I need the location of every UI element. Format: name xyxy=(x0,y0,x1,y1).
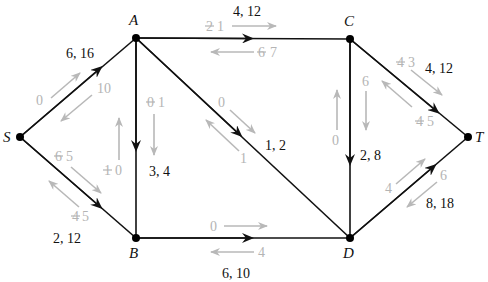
capacity-label-D-T: 8, 18 xyxy=(426,196,454,211)
residual-forward-C-T: 3 xyxy=(408,55,415,70)
capacity-label-A-D: 1, 2 xyxy=(265,138,286,153)
residual-labels: 0 10 6 5 4 5 2 1 6 7 0 1 1 0 0 1 6 0 4 3… xyxy=(36,19,447,260)
capacity-labels: 6, 16 2, 12 4, 12 3, 4 1, 2 2, 8 4, 12 6… xyxy=(53,4,454,281)
flow-network-diagram: S A B C D T 6, 16 2, 12 4, 12 3, 4 1, 2 … xyxy=(0,0,488,282)
residual-backward-A-C: 7 xyxy=(270,45,277,60)
node-B xyxy=(132,234,140,242)
node-label-D: D xyxy=(342,245,354,261)
edge-D-T-arrow xyxy=(350,168,432,238)
capacity-label-B-D: 6, 10 xyxy=(222,266,250,281)
capacity-label-A-C: 4, 12 xyxy=(233,4,261,19)
node-label-C: C xyxy=(344,13,355,29)
edge-S-A-arrow xyxy=(20,70,98,137)
residual-backward-A-D: 1 xyxy=(240,151,247,166)
residual-backward-D-T: 6 xyxy=(440,168,447,183)
residual-backward-B-D: 4 xyxy=(258,245,265,260)
capacity-label-C-D: 2, 8 xyxy=(360,148,381,163)
residual-backward-A-B: 0 xyxy=(115,163,122,178)
residual-forward-A-C: 1 xyxy=(217,19,224,34)
capacity-label-C-T: 4, 12 xyxy=(425,61,453,76)
residual-forward-C-D: 6 xyxy=(362,74,369,89)
residual-arrow-forward-S-B xyxy=(71,167,101,193)
residual-arrow-forward-D-T xyxy=(396,159,425,184)
capacity-label-S-B: 2, 12 xyxy=(53,231,81,246)
node-label-T: T xyxy=(475,129,485,145)
residual-arrow-backward-C-T xyxy=(382,81,412,107)
edge-S-B-arrow xyxy=(20,137,98,205)
residual-forward-D-T: 4 xyxy=(385,181,392,196)
node-label-B: B xyxy=(129,245,138,261)
residual-forward-A-B: 1 xyxy=(158,95,165,110)
residual-forward-A-D: 0 xyxy=(218,95,225,110)
node-label-S: S xyxy=(3,129,11,145)
node-D xyxy=(346,234,354,242)
node-S xyxy=(16,133,24,141)
residual-forward-B-D: 0 xyxy=(210,219,217,234)
node-A xyxy=(132,34,140,42)
capacity-label-S-A: 6, 16 xyxy=(66,46,94,61)
node-T xyxy=(464,133,472,141)
edge-A-C-arrow xyxy=(136,38,248,39)
residual-backward-C-T: 5 xyxy=(427,114,434,129)
residual-backward-C-D: 0 xyxy=(332,133,339,148)
capacity-label-A-B: 3, 4 xyxy=(149,164,170,179)
residual-backward-S-A: 10 xyxy=(97,81,111,96)
residual-backward-S-B: 5 xyxy=(82,209,89,224)
residual-forward-S-B: 5 xyxy=(66,149,73,164)
residual-arrow-backward-A-D xyxy=(206,120,239,151)
node-C xyxy=(346,35,354,43)
residual-arrows xyxy=(49,26,442,252)
node-label-A: A xyxy=(128,12,139,28)
residual-forward-S-A: 0 xyxy=(36,93,43,108)
residual-arrow-forward-S-A xyxy=(51,73,80,98)
